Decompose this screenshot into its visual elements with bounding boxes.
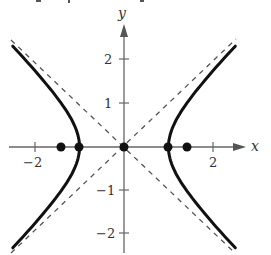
y-axis-arrow-icon <box>120 24 128 37</box>
x-axis-arrow-icon <box>233 143 246 151</box>
right-vertex-point <box>164 143 173 152</box>
y-tick-label-neg1: −1 <box>96 183 115 198</box>
hyperbola-diagram: x y −2 2 2 1 −1 −2 <box>0 0 271 255</box>
y-tick-label-neg2: −2 <box>96 226 115 241</box>
y-axis-label: y <box>117 5 127 21</box>
cropped-text-fragment <box>36 0 144 3</box>
right-focus-point <box>183 143 192 152</box>
left-focus-point <box>57 143 66 152</box>
y-tick-label-2: 2 <box>104 52 112 67</box>
x-axis-label: x <box>251 138 259 154</box>
left-vertex-point <box>75 143 84 152</box>
x-tick-label-neg2: −2 <box>23 155 42 170</box>
y-tick-label-1: 1 <box>104 96 112 111</box>
center-point <box>120 143 129 152</box>
x-tick-label-2: 2 <box>209 155 217 170</box>
